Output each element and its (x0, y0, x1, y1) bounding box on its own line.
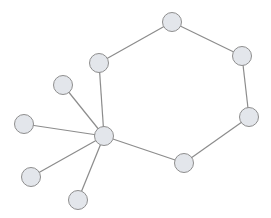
edge-H-G (104, 136, 184, 163)
node-J (69, 191, 88, 210)
edge-D-H (184, 117, 249, 163)
network-graph (0, 0, 271, 218)
edge-G-J (78, 136, 104, 200)
edge-G-F (24, 124, 104, 136)
node-G (95, 127, 114, 146)
edge-G-C (99, 63, 104, 136)
node-I (22, 168, 41, 187)
node-H (175, 154, 194, 173)
node-C (90, 54, 109, 73)
node-A (163, 13, 182, 32)
edge-G-I (31, 136, 104, 177)
edge-A-B (172, 22, 242, 56)
node-D (240, 108, 259, 127)
node-B (233, 47, 252, 66)
node-E (54, 76, 73, 95)
edges-layer (24, 22, 249, 200)
edge-C-A (99, 22, 172, 63)
node-F (15, 115, 34, 134)
